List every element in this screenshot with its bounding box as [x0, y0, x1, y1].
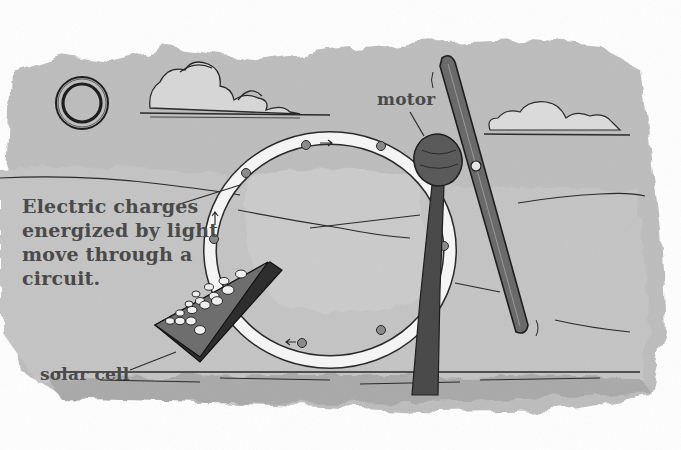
caption-line: energized by light: [22, 218, 242, 242]
caption-line: Electric charges: [22, 194, 242, 218]
caption-text: Electric charges energized by light move…: [22, 194, 242, 290]
caption-line: move through a: [22, 242, 242, 266]
solar-cell-label: solar cell: [40, 364, 129, 384]
motor-label: motor: [377, 89, 435, 109]
caption-line: circuit.: [22, 266, 242, 290]
